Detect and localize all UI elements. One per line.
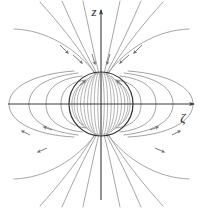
open-field-line [106,134,141,207]
field-arrow [155,148,164,152]
open-field-line [62,134,97,207]
open-field-line [14,29,96,74]
open-field-line [106,1,141,74]
vertical-axis-label: z [90,4,96,19]
field-arrow [120,55,129,63]
field-arrow [38,148,47,152]
open-field-line [107,29,189,74]
open-field-line [107,134,189,179]
figure-container: z ζ [0,0,205,209]
field-arrow [172,131,180,135]
dipole-field-diagram: z ζ [0,0,205,209]
field-arrow [134,45,142,53]
open-field-line [14,134,96,179]
horizontal-axis-label: ζ [180,110,186,125]
field-arrow [73,55,82,63]
field-arrow [22,131,30,135]
